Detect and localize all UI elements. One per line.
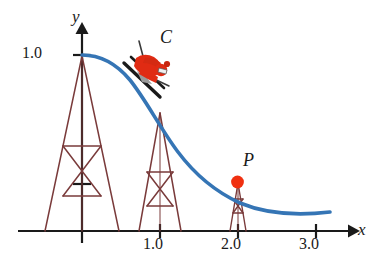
point-p-label: P (243, 151, 254, 169)
skier-figure (124, 41, 170, 97)
pylon-right (230, 183, 246, 231)
x-tick-label-2: 2.0 (221, 236, 241, 252)
x-axis-label: x (358, 221, 366, 238)
skier-glove (164, 61, 170, 67)
point-p-marker (231, 176, 244, 189)
plot-canvas (0, 0, 384, 265)
y-tick-label-1: 1.0 (22, 45, 42, 61)
x-tick-label-3: 3.0 (299, 236, 319, 252)
pylon-left (45, 56, 119, 231)
point-c-label: C (160, 28, 172, 46)
axes-group (18, 22, 360, 243)
x-tick-label-1: 1.0 (143, 236, 163, 252)
pylon-middle (139, 113, 181, 231)
y-axis-label: y (72, 8, 80, 25)
slope-curve (82, 55, 330, 214)
ski-slope-curve-figure: y x 1.0 1.0 2.0 3.0 C P (0, 0, 384, 265)
